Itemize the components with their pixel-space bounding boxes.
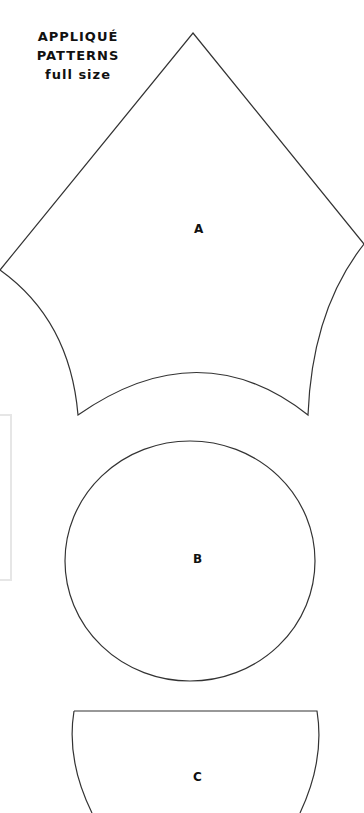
pattern-a-outline bbox=[0, 33, 364, 415]
pattern-b-outline bbox=[65, 441, 315, 681]
pattern-canvas bbox=[0, 0, 364, 813]
pattern-a-label: A bbox=[194, 222, 203, 236]
pattern-c-label: C bbox=[193, 770, 202, 784]
pattern-c-outline bbox=[72, 711, 319, 813]
pattern-b-label: B bbox=[193, 552, 202, 566]
